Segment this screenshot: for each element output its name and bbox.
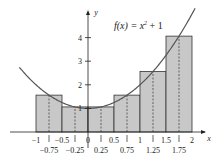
- x-axis-label: x: [206, 134, 211, 143]
- midpoint-tick-label: −0.75: [40, 146, 59, 155]
- x-axis-arrow-icon: [201, 130, 206, 134]
- midpoint-tick-label: 1.25: [146, 146, 160, 155]
- x-tick-label: −1: [32, 136, 41, 145]
- midpoint-tick-label: 1.75: [172, 146, 186, 155]
- midpoint-tick-label: 0.75: [120, 146, 134, 155]
- x-tick-label: 0.5: [109, 136, 119, 145]
- y-axis-arrow-icon: [86, 10, 90, 15]
- x-tick-label: 2: [190, 136, 194, 145]
- chart-canvas: xy1234−1−0.500.511.52−0.75−0.250.250.751…: [0, 0, 215, 167]
- midpoint-tick-label: −0.25: [66, 146, 85, 155]
- x-tick-label: 1: [138, 136, 142, 145]
- riemann-sum-chart: xy1234−1−0.500.511.52−0.75−0.250.250.751…: [0, 0, 215, 167]
- x-tick-label: −0.5: [55, 136, 70, 145]
- y-tick-label: 4: [78, 34, 82, 43]
- x-tick-label: 1.5: [161, 136, 171, 145]
- x-tick-label: 0: [86, 136, 90, 145]
- y-tick-label: 2: [78, 81, 82, 90]
- midpoint-tick-label: 0.25: [94, 146, 108, 155]
- y-tick-label: 1: [78, 104, 82, 113]
- y-tick-label: 3: [78, 57, 82, 66]
- function-title: f(x) = x2 + 1: [114, 20, 163, 32]
- y-axis-label: y: [93, 8, 98, 17]
